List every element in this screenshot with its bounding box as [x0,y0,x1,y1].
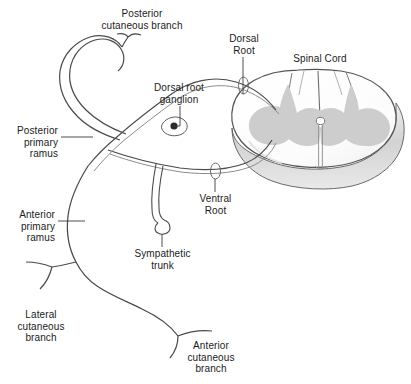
label-dorsal-root: Dorsal Root [216,33,272,56]
label-posterior-primary-ramus: Posterior primary ramus [0,125,58,160]
posterior-ramus-outer [70,39,126,134]
posterior-ramus-inner [60,36,122,140]
central-canal [316,117,324,124]
label-dorsal-root-ganglion: Dorsal root ganglion [128,82,230,105]
posterior-cutaneous-branch-fork-right [128,34,141,37]
posterior-cutaneous-branch-stem [122,37,128,47]
label-anterior-primary-ramus: Anterior primary ramus [0,209,55,244]
anterior-cutaneous-branch-upper [178,331,212,336]
posterior-cutaneous-branch-fork-left [117,34,128,37]
lateral-cutaneous-branch-lower [40,267,52,289]
ventral-root-sleeve [211,163,221,179]
sympathetic-trunk-limb-right [159,166,164,220]
label-anterior-cutaneous-branch: Anterior cutaneous branch [173,340,249,375]
sympathetic-trunk [152,164,170,234]
lateral-cutaneous-branch-upper [26,262,52,267]
label-sympathetic-trunk: Sympathetic trunk [130,248,195,271]
trunk-line-a [88,136,118,166]
label-ventral-root: Ventral Root [187,193,244,216]
lateral-cutaneous-branch-stem [52,262,76,267]
anatomy-diagram: Posterior cutaneous branch Dorsal root g… [0,0,411,384]
sympathetic-trunk-limb-left [152,164,158,223]
label-spinal-cord: Spinal Cord [281,53,359,65]
label-posterior-cutaneous-branch: Posterior cutaneous branch [86,8,198,31]
spinal-cord-cross-section [232,69,404,189]
label-lateral-cutaneous-branch: Lateral cutaneous branch [6,309,76,344]
